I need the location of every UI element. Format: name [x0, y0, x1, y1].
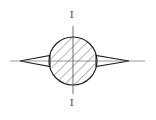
section-label-top: I: [70, 11, 74, 20]
section-label-bottom: I: [70, 99, 74, 108]
cross-section-drawing: [0, 0, 156, 120]
